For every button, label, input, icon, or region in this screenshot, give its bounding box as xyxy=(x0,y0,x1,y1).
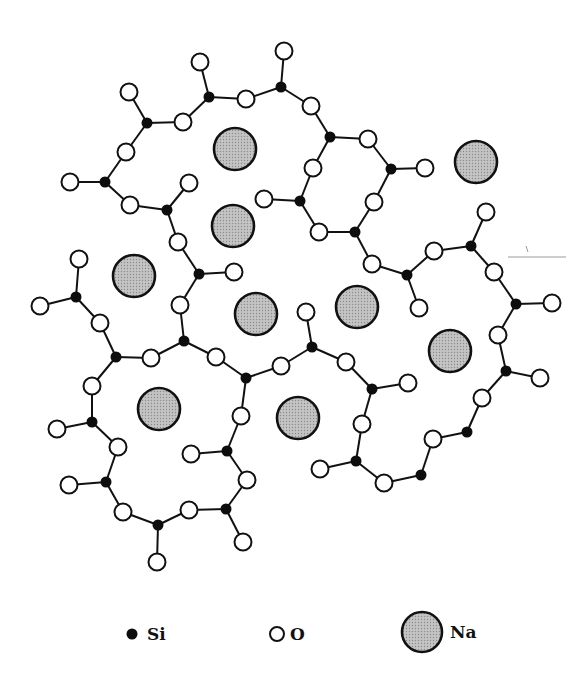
o-atom-icon xyxy=(312,461,329,478)
legend-label-o: O xyxy=(290,624,305,644)
si-atom-icon xyxy=(367,384,378,395)
o-atom-icon xyxy=(426,243,443,260)
si-atom-icon xyxy=(100,177,111,188)
o-atom-icon xyxy=(273,358,290,375)
o-atom-icon xyxy=(226,264,243,281)
o-atom-icon xyxy=(276,43,293,60)
o-atom-icon xyxy=(376,475,393,492)
o-atom-icon xyxy=(303,98,320,115)
na-ion-icon xyxy=(113,255,155,297)
o-atom-icon xyxy=(366,194,383,211)
si-atom-icon xyxy=(101,477,112,488)
o-atom-icon xyxy=(183,446,200,463)
si-atom-icon xyxy=(87,417,98,428)
o-atom-icon xyxy=(92,315,109,332)
o-atom-icon xyxy=(238,91,255,108)
o-atom-icon xyxy=(298,304,315,321)
si-atom-icon xyxy=(307,342,318,353)
na-ion-icon xyxy=(235,293,277,335)
o-atom-icon xyxy=(354,416,371,433)
o-atom-icon xyxy=(360,131,377,148)
o-atom-icon xyxy=(175,114,192,131)
o-atom-icon xyxy=(417,160,434,177)
o-atom-icon xyxy=(172,297,189,314)
si-atom-icon xyxy=(204,92,215,103)
legend-item-na: Na xyxy=(402,612,477,652)
o-atom-icon xyxy=(478,204,495,221)
o-atom-icon xyxy=(181,502,198,519)
na-ion-icon xyxy=(138,388,180,430)
o-atom-icon xyxy=(239,472,256,489)
sodium-ions-layer xyxy=(113,128,497,439)
o-atom-icon xyxy=(121,84,138,101)
na-ion-icon xyxy=(455,141,497,183)
na-ion-icon xyxy=(214,128,256,170)
o-atom-icon xyxy=(305,160,322,177)
o-atom-icon xyxy=(61,477,78,494)
si-atom-icon xyxy=(386,164,397,175)
o-atom-icon xyxy=(400,375,417,392)
stray-tick-mark xyxy=(526,246,528,252)
o-atom-icon xyxy=(311,224,328,241)
o-atom-icon xyxy=(270,627,284,641)
o-atom-icon xyxy=(170,234,187,251)
o-atom-icon xyxy=(338,354,355,371)
si-atom-icon xyxy=(416,470,427,481)
o-atom-icon xyxy=(110,439,127,456)
si-atom-icon xyxy=(111,352,122,363)
si-atom-icon xyxy=(402,270,413,281)
o-atom-icon xyxy=(474,390,491,407)
o-atom-icon xyxy=(425,431,442,448)
legend: Si O Na xyxy=(127,612,477,652)
o-atom-icon xyxy=(84,378,101,395)
o-atom-icon xyxy=(149,554,166,571)
o-atom-icon xyxy=(49,421,66,438)
na-ion-icon xyxy=(277,397,319,439)
si-atom-icon xyxy=(276,82,287,93)
si-atom-icon xyxy=(462,427,473,438)
o-atom-icon xyxy=(181,175,198,192)
silicate-network-diagram: Si O Na xyxy=(0,0,581,678)
o-atom-icon xyxy=(192,54,209,71)
o-atom-icon xyxy=(490,327,507,344)
na-ion-icon xyxy=(402,612,442,652)
legend-label-na: Na xyxy=(450,622,477,642)
si-atom-icon xyxy=(222,446,233,457)
o-atom-icon xyxy=(486,264,503,281)
si-atom-icon xyxy=(295,196,306,207)
si-atom-icon xyxy=(194,269,205,280)
na-ion-icon xyxy=(336,286,378,328)
si-atom-icon xyxy=(350,227,361,238)
o-atom-icon xyxy=(411,300,428,317)
si-atom-icon xyxy=(179,336,190,347)
o-atom-icon xyxy=(233,408,250,425)
si-atom-icon xyxy=(127,629,138,640)
o-atom-icon xyxy=(115,504,132,521)
si-atom-icon xyxy=(162,205,173,216)
legend-item-o: O xyxy=(270,624,305,644)
legend-label-si: Si xyxy=(147,624,166,644)
si-atom-icon xyxy=(325,132,336,143)
o-atom-icon xyxy=(364,256,381,273)
o-atom-icon xyxy=(143,350,160,367)
si-atom-icon xyxy=(466,241,477,252)
na-ion-icon xyxy=(212,205,254,247)
si-atom-icon xyxy=(142,118,153,129)
o-atom-icon xyxy=(118,144,135,161)
o-atom-icon xyxy=(32,298,49,315)
o-atom-icon xyxy=(122,197,139,214)
o-atom-icon xyxy=(62,174,79,191)
o-atom-icon xyxy=(256,191,273,208)
o-atom-icon xyxy=(235,534,252,551)
si-atom-icon xyxy=(221,504,232,515)
si-atom-icon xyxy=(501,366,512,377)
si-atom-icon xyxy=(241,373,252,384)
legend-item-si: Si xyxy=(127,624,167,644)
bonds-layer xyxy=(40,51,552,562)
si-atom-icon xyxy=(351,456,362,467)
si-atom-icon xyxy=(511,299,522,310)
o-atom-icon xyxy=(71,251,88,268)
o-atom-icon xyxy=(544,295,561,312)
si-atom-icon xyxy=(153,520,164,531)
o-atom-icon xyxy=(532,370,549,387)
